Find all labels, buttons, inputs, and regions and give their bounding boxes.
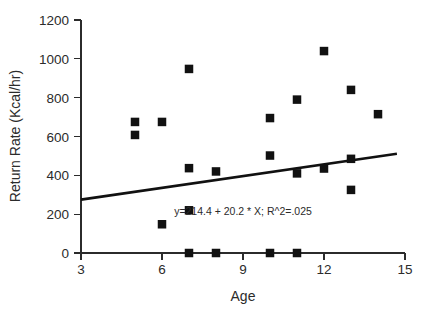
data-point (347, 155, 356, 164)
data-point (293, 169, 302, 178)
data-point (212, 249, 221, 258)
y-tick-label: 600 (46, 130, 69, 145)
x-axis-ticks (81, 253, 405, 260)
data-point (158, 220, 167, 229)
x-tick-label: 9 (239, 262, 247, 277)
data-point (185, 249, 194, 258)
y-tick-label: 200 (46, 207, 69, 222)
x-tick-label: 12 (316, 262, 331, 277)
data-point (293, 95, 302, 104)
plot-area: 1200 1000 800 600 400 200 0 3 6 9 12 15 … (0, 0, 434, 314)
data-point (131, 118, 140, 127)
y-tick-label: 1200 (39, 13, 69, 28)
y-tick-label: 400 (46, 168, 69, 183)
data-point (131, 131, 140, 140)
data-point (212, 167, 221, 176)
data-point (347, 86, 356, 95)
x-axis-tick-labels: 3 6 9 12 15 (77, 262, 412, 277)
data-point (320, 164, 329, 173)
y-tick-label: 1000 (39, 52, 69, 67)
x-tick-label: 15 (397, 262, 412, 277)
data-point (185, 164, 194, 173)
data-point (266, 151, 275, 160)
data-point (347, 186, 356, 195)
scatter-chart: 1200 1000 800 600 400 200 0 3 6 9 12 15 … (0, 0, 434, 314)
y-axis-ticks (74, 20, 81, 253)
regression-equation-label: y=214.4 + 20.2 * X; R^2=.025 (174, 205, 312, 217)
x-tick-label: 3 (77, 262, 85, 277)
data-markers (131, 47, 383, 257)
y-axis-tick-labels: 1200 1000 800 600 400 200 0 (39, 13, 69, 261)
data-point (320, 47, 329, 56)
data-point (185, 65, 194, 74)
y-tick-label: 0 (61, 246, 69, 261)
data-point (266, 114, 275, 123)
data-point (266, 249, 275, 258)
data-point (158, 118, 167, 127)
x-axis-title: Age (231, 288, 256, 304)
data-point (293, 249, 302, 258)
y-tick-label: 800 (46, 91, 69, 106)
y-axis-title: Return Rate (Kcal/hr) (7, 70, 23, 202)
data-point (374, 110, 383, 119)
x-tick-label: 6 (158, 262, 166, 277)
